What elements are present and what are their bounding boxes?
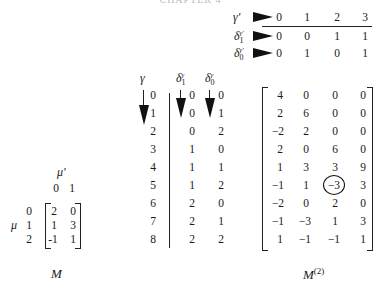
delta1-gamma-prime-label: δ1γ': [234, 29, 244, 45]
cell: 2: [328, 196, 342, 210]
cell: 1: [214, 214, 228, 228]
cell: 0: [214, 88, 228, 102]
cell: 1: [299, 178, 313, 192]
cell: 2: [146, 124, 160, 138]
cell: 1: [358, 46, 372, 60]
cell: 0: [328, 124, 342, 138]
cell: 1: [66, 232, 80, 246]
cell: −2: [268, 124, 288, 138]
cell: 2: [272, 106, 288, 120]
delta0-header: δ0γ: [205, 71, 213, 87]
cell: 0: [185, 106, 199, 120]
cell: 1: [272, 160, 288, 174]
cell: 2: [272, 142, 288, 156]
cell: 1: [214, 160, 228, 174]
row-index: 1: [22, 218, 36, 232]
cell: 0: [214, 142, 228, 156]
cell: 3: [328, 160, 342, 174]
cell: 1: [272, 232, 288, 246]
arrow-right-icon: [253, 48, 273, 58]
cell: 1: [185, 178, 199, 192]
gamma-prime-label: γ': [233, 10, 240, 24]
cell: 0: [272, 46, 286, 60]
cell: −3: [295, 214, 315, 228]
cell: 3: [356, 214, 370, 228]
arrow-right-icon: [253, 31, 273, 41]
cell: 7: [146, 214, 160, 228]
cell: 0: [272, 29, 286, 43]
cell: 0: [330, 46, 344, 60]
cell: 0: [185, 88, 199, 102]
cell: 2: [299, 124, 313, 138]
cell: -1: [45, 232, 61, 246]
cell: 1: [185, 160, 199, 174]
col-index: 1: [65, 181, 79, 195]
cell: 0: [356, 124, 370, 138]
cell: −1: [268, 178, 288, 192]
cell: 2: [214, 178, 228, 192]
cell: 0: [66, 204, 80, 218]
divider: [262, 26, 372, 27]
cell: −1: [268, 214, 288, 228]
cell: 2: [330, 10, 344, 24]
cell: 0: [328, 106, 342, 120]
cell: 1: [330, 29, 344, 43]
delta1-header: δ1γ: [176, 71, 184, 87]
cell: 0: [299, 196, 313, 210]
cell: 1: [358, 29, 372, 43]
cell: 6: [299, 106, 313, 120]
cell: 0: [272, 10, 286, 24]
cell: 2: [214, 124, 228, 138]
cell: −1: [295, 232, 315, 246]
cell: 3: [356, 178, 370, 192]
cell: 0: [300, 29, 314, 43]
row-index: 0: [22, 204, 36, 218]
matrix-m-caption: M: [51, 266, 62, 282]
circled-cell: −3: [324, 178, 344, 192]
cell: 1: [300, 10, 314, 24]
cell: 0: [356, 196, 370, 210]
cell: 0: [356, 106, 370, 120]
cell: 2: [185, 214, 199, 228]
cell: 1: [356, 232, 370, 246]
mu-label: μ: [11, 218, 17, 232]
cell: 6: [328, 142, 342, 156]
cell: 4: [272, 88, 288, 102]
gamma-header: γ: [140, 71, 145, 85]
column-separator: [169, 93, 170, 248]
delta0-gamma-prime-label: δ0γ': [234, 46, 244, 62]
cell: −2: [268, 196, 288, 210]
cell: 1: [214, 106, 228, 120]
cell: 0: [214, 196, 228, 210]
cell: 0: [146, 88, 160, 102]
cell: 2: [185, 196, 199, 210]
cell: 1: [300, 46, 314, 60]
cell: 9: [356, 160, 370, 174]
col-index: 0: [49, 181, 63, 195]
cell: 0: [299, 88, 313, 102]
cell: 3: [299, 160, 313, 174]
mu-prime-label: μ': [57, 165, 66, 179]
cell: 8: [146, 232, 160, 246]
cell: 6: [146, 196, 160, 210]
cell: 0: [356, 142, 370, 156]
arrow-right-icon: [253, 12, 273, 22]
cell: 3: [146, 142, 160, 156]
cell: 0: [356, 88, 370, 102]
cell: 0: [185, 124, 199, 138]
cell: 3: [358, 10, 372, 24]
cell: 2: [214, 232, 228, 246]
cell: −1: [324, 232, 344, 246]
cell: 1: [47, 218, 61, 232]
cell: 1: [146, 106, 160, 120]
row-index: 2: [22, 232, 36, 246]
matrix-m2-caption: M(2): [303, 266, 324, 283]
cell: 1: [185, 142, 199, 156]
cell: 3: [66, 218, 80, 232]
cell: 0: [299, 142, 313, 156]
cell: 5: [146, 178, 160, 192]
page-header: CHAPTER 4: [0, 0, 381, 5]
cell: 2: [185, 232, 199, 246]
cell: 1: [328, 214, 342, 228]
cell: 4: [146, 160, 160, 174]
